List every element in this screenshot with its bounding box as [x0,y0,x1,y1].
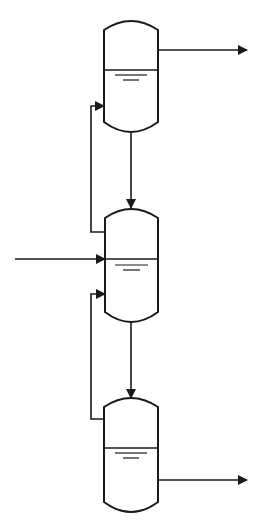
v3-to-v2-recycle-arrow [91,294,105,419]
vessel-1 [104,21,158,132]
vessel-2 [105,209,158,322]
process-flow-diagram [0,0,265,531]
v2-to-v1-recycle-arrow [91,106,105,232]
vessel-3 [104,398,158,512]
